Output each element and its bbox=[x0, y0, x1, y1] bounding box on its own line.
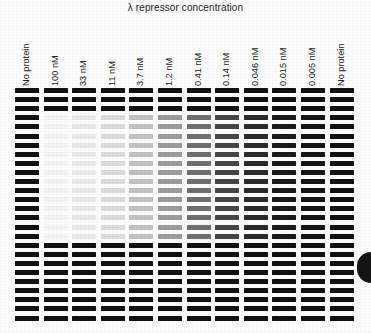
gel-band bbox=[272, 106, 296, 111]
lane-label-row: No protein100 nM33 nM11 nM3.7 nM1.2 nM0.… bbox=[0, 18, 371, 86]
gel-band bbox=[15, 206, 39, 211]
gel-band bbox=[44, 297, 68, 302]
gel-band bbox=[330, 252, 354, 257]
gel-band bbox=[72, 188, 96, 193]
gel-band bbox=[330, 134, 354, 139]
gel-band bbox=[244, 243, 268, 248]
gel-band bbox=[158, 316, 182, 321]
gel-band bbox=[330, 316, 354, 321]
gel-band bbox=[187, 115, 211, 120]
gel-band bbox=[187, 243, 211, 248]
gel-band bbox=[44, 115, 68, 120]
gel-band bbox=[301, 115, 325, 120]
gel-band bbox=[15, 297, 39, 302]
gel-band bbox=[187, 106, 211, 111]
gel-band bbox=[72, 179, 96, 184]
gel-lane-10 bbox=[272, 86, 296, 333]
gel-band bbox=[301, 279, 325, 284]
gel-band bbox=[272, 306, 296, 311]
gel-band bbox=[15, 179, 39, 184]
gel-band bbox=[215, 106, 239, 111]
lane-label-12: No protein bbox=[335, 18, 347, 86]
gel-band bbox=[301, 225, 325, 230]
gel-band bbox=[101, 115, 125, 120]
gel-band bbox=[129, 124, 153, 129]
gel-band bbox=[72, 288, 96, 293]
gel-band bbox=[158, 288, 182, 293]
gel-band bbox=[101, 215, 125, 220]
gel-band bbox=[272, 288, 296, 293]
gel-band bbox=[272, 234, 296, 239]
gel-band bbox=[158, 134, 182, 139]
gel-band bbox=[301, 106, 325, 111]
gel-band bbox=[187, 297, 211, 302]
gel-band bbox=[187, 188, 211, 193]
gel-band bbox=[158, 279, 182, 284]
gel-band bbox=[44, 261, 68, 266]
gel-band bbox=[72, 297, 96, 302]
gel-band bbox=[72, 134, 96, 139]
gel-band bbox=[158, 188, 182, 193]
gel-band bbox=[301, 152, 325, 157]
lane-label-9: 0.046 nM bbox=[249, 18, 261, 86]
gel-band bbox=[272, 115, 296, 120]
gel-band bbox=[101, 170, 125, 175]
gel-band bbox=[244, 261, 268, 266]
gel-lane-12 bbox=[330, 86, 354, 333]
gel-image bbox=[0, 86, 371, 333]
gel-band bbox=[72, 279, 96, 284]
gel-band bbox=[72, 225, 96, 230]
gel-band bbox=[129, 288, 153, 293]
gel-band bbox=[101, 124, 125, 129]
gel-band bbox=[129, 152, 153, 157]
gel-band bbox=[330, 225, 354, 230]
gel-band bbox=[215, 161, 239, 166]
gel-band bbox=[158, 206, 182, 211]
lane-label-2: 100 nM bbox=[49, 18, 61, 86]
gel-band bbox=[101, 106, 125, 111]
gel-band bbox=[272, 97, 296, 102]
gel-band bbox=[244, 225, 268, 230]
gel-band bbox=[72, 252, 96, 257]
gel-band bbox=[129, 170, 153, 175]
gel-band bbox=[44, 161, 68, 166]
gel-band bbox=[15, 134, 39, 139]
gel-band bbox=[330, 106, 354, 111]
gel-band bbox=[330, 215, 354, 220]
gel-band bbox=[272, 297, 296, 302]
lane-label-8: 0.14 nM bbox=[220, 18, 232, 86]
gel-lane-9 bbox=[244, 86, 268, 333]
gel-band bbox=[129, 279, 153, 284]
gel-band bbox=[72, 152, 96, 157]
gel-band bbox=[101, 134, 125, 139]
gel-band bbox=[215, 297, 239, 302]
gel-band bbox=[187, 288, 211, 293]
gel-band bbox=[15, 161, 39, 166]
gel-band bbox=[244, 115, 268, 120]
gel-band bbox=[330, 279, 354, 284]
gel-band bbox=[72, 143, 96, 148]
gel-lane-6 bbox=[158, 86, 182, 333]
gel-band bbox=[158, 261, 182, 266]
gel-band bbox=[15, 306, 39, 311]
gel-band bbox=[330, 124, 354, 129]
figure-title: λ repressor concentration bbox=[0, 2, 371, 13]
gel-band bbox=[72, 234, 96, 239]
gel-band bbox=[72, 243, 96, 248]
gel-band bbox=[44, 179, 68, 184]
gel-band bbox=[272, 316, 296, 321]
gel-band bbox=[187, 225, 211, 230]
gel-band bbox=[72, 206, 96, 211]
gel-band bbox=[330, 179, 354, 184]
gel-band bbox=[330, 261, 354, 266]
gel-band bbox=[330, 243, 354, 248]
gel-band bbox=[15, 197, 39, 202]
gel-band bbox=[101, 234, 125, 239]
gel-band bbox=[129, 215, 153, 220]
gel-lane-2 bbox=[44, 86, 68, 333]
gel-band bbox=[158, 297, 182, 302]
gel-band bbox=[272, 270, 296, 275]
gel-band bbox=[272, 124, 296, 129]
gel-band bbox=[158, 234, 182, 239]
gel-band bbox=[72, 124, 96, 129]
